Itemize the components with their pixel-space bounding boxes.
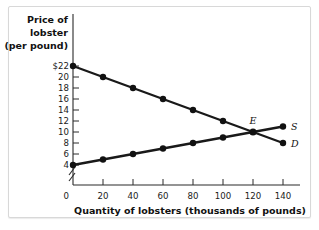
supply-data-point xyxy=(160,145,166,151)
demand-curve-label: D xyxy=(290,138,299,149)
demand-data-point xyxy=(190,107,196,113)
x-axis-title: Quantity of lobsters (thousands of pound… xyxy=(74,205,306,216)
y-tick-label: $22 xyxy=(53,61,69,71)
equilibrium-marker xyxy=(249,128,256,135)
supply-data-point xyxy=(280,123,286,129)
x-tick-label: 80 xyxy=(188,191,199,201)
x-tick-label: 140 xyxy=(275,191,291,201)
supply-data-point xyxy=(100,156,106,162)
y-axis-ticks: $22 20 18 16 14 12 10 8 6 4 0 xyxy=(53,61,79,201)
y-tick-label: 12 xyxy=(58,116,69,126)
y-axis-title-line-2: lobster xyxy=(30,27,68,38)
y-axis-break-icon xyxy=(69,167,75,181)
demand-data-point xyxy=(70,63,76,69)
y-tick-label: 6 xyxy=(64,149,69,159)
demand-data-point xyxy=(220,118,226,124)
x-axis-ticks: 20 40 60 80 100 120 140 xyxy=(98,179,292,201)
y-axis-title: Price of lobster (per pound) xyxy=(4,14,68,51)
x-tick-label: 20 xyxy=(98,191,109,201)
demand-data-point xyxy=(130,85,136,91)
y-tick-label-zero: 0 xyxy=(64,191,69,201)
y-axis-title-line-1: Price of xyxy=(27,14,69,25)
y-tick-label: 8 xyxy=(64,138,69,148)
x-tick-label: 60 xyxy=(158,191,169,201)
supply-data-point xyxy=(130,151,136,157)
y-tick-label: 20 xyxy=(58,72,69,82)
demand-data-point xyxy=(280,140,286,146)
y-tick-label: 10 xyxy=(58,127,69,137)
supply-demand-chart: Price of lobster (per pound) $22 20 18 1… xyxy=(0,0,319,230)
x-tick-label: 120 xyxy=(245,191,261,201)
demand-data-point xyxy=(160,96,166,102)
supply-data-point xyxy=(220,134,226,140)
figure-container: Price of lobster (per pound) $22 20 18 1… xyxy=(0,0,319,230)
x-tick-label: 40 xyxy=(128,191,139,201)
y-tick-label: 4 xyxy=(64,160,69,170)
equilibrium-label: E xyxy=(249,115,257,126)
x-tick-label: 100 xyxy=(215,191,231,201)
supply-curve-label: S xyxy=(291,121,298,132)
demand-data-point xyxy=(100,74,106,80)
supply-data-point xyxy=(190,140,196,146)
y-tick-label: 16 xyxy=(58,94,69,104)
y-axis-title-line-3: (per pound) xyxy=(4,40,68,51)
equilibrium-point: E xyxy=(249,115,257,136)
supply-data-point xyxy=(70,162,76,168)
y-tick-label: 18 xyxy=(58,83,69,93)
y-tick-label: 14 xyxy=(58,105,69,115)
